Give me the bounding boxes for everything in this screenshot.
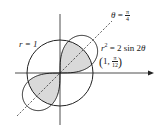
polar-diagram [0, 0, 160, 131]
pi-over-4-fraction: π4 [125, 9, 130, 22]
theta-label: θ = π4 [111, 9, 130, 22]
point-label: (1, π12) [99, 55, 122, 68]
circle-label: r = 1 [19, 40, 38, 49]
lemniscate-label: r2 = 2 sin 2θ [101, 42, 146, 53]
x-axis-arrow-icon [148, 71, 154, 76]
